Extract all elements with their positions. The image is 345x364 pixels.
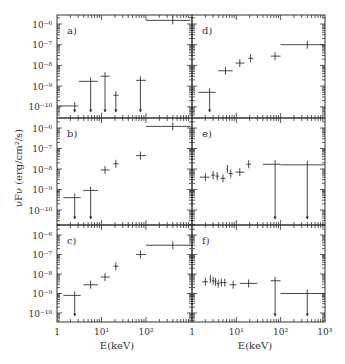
y-tick-label: 10⁻¹⁰: [29, 206, 53, 216]
x-tick-label: 1: [189, 327, 195, 337]
x-tick-label: 10¹: [94, 327, 109, 337]
panel-b: b): [57, 118, 192, 225]
data-point: [200, 173, 210, 181]
panel-a: a): [57, 15, 192, 118]
data-point: [217, 280, 220, 288]
data-point: [57, 102, 78, 113]
data-point: [221, 174, 226, 182]
panel-label: e): [202, 128, 212, 139]
data-point: [146, 122, 191, 130]
data-point: [211, 171, 215, 179]
panel-label: c): [67, 235, 77, 246]
data-point: [216, 172, 220, 180]
spectral-energy-distribution-figure: a)b)c)d)e)f)10⁻⁶10⁻⁷10⁻⁸10⁻⁹10⁻¹⁰10⁻⁶10⁻…: [0, 0, 345, 364]
data-point: [198, 88, 215, 112]
y-tick-label: 10⁻⁷: [32, 250, 52, 260]
data-point: [101, 72, 110, 112]
data-point: [136, 251, 146, 259]
y-tick-label: 10⁻⁸: [32, 165, 52, 175]
data-point: [210, 275, 211, 283]
data-point: [113, 160, 118, 168]
data-point: [229, 281, 236, 289]
x-tick-label: 10²: [273, 327, 288, 337]
data-point: [281, 290, 325, 317]
y-tick-label: 10⁻⁷: [32, 40, 52, 50]
data-point: [223, 279, 227, 287]
data-point: [263, 160, 281, 219]
data-point: [281, 41, 325, 49]
x-tick-label: 1: [54, 327, 60, 337]
x-axis-label-left: E(keV): [100, 340, 134, 351]
y-tick-label: 10⁻⁹: [32, 289, 52, 299]
x-tick-label: 10³: [317, 327, 332, 337]
data-point: [113, 262, 118, 270]
panel-label: d): [202, 25, 212, 36]
data-point: [236, 59, 245, 67]
y-tick-label: 10⁻⁷: [32, 144, 52, 154]
x-axis-label-right: E(keV): [238, 340, 272, 351]
data-point: [79, 77, 98, 112]
data-point: [214, 278, 216, 286]
data-point: [271, 52, 281, 60]
data-point: [146, 241, 191, 249]
data-point: [101, 273, 110, 281]
data-point: [212, 277, 215, 285]
y-tick-label: 10⁻⁸: [32, 270, 52, 280]
panel-c: c): [57, 225, 192, 322]
data-point: [281, 161, 325, 220]
data-point: [202, 278, 208, 286]
y-tick-label: 10⁻⁶: [32, 124, 52, 134]
panel-d: d): [192, 15, 325, 118]
panel-f: f): [192, 225, 325, 322]
data-point: [220, 279, 223, 287]
data-point: [229, 170, 233, 178]
panel-label: f): [202, 235, 210, 246]
data-point: [240, 279, 258, 287]
x-tick-label: 10¹: [229, 327, 244, 337]
data-point: [218, 67, 233, 75]
panel-label: b): [67, 128, 77, 139]
y-tick-label: 10⁻¹⁰: [29, 102, 53, 112]
x-tick-label: 10²: [138, 327, 153, 337]
y-tick-label: 10⁻⁸: [32, 61, 52, 71]
y-tick-label: 10⁻⁶: [32, 231, 52, 241]
y-tick-label: 10⁻⁹: [32, 82, 52, 92]
y-axis-label-rotated: νFν (erg/cm²/s): [13, 129, 24, 207]
data-point: [83, 281, 98, 289]
data-point: [64, 194, 81, 220]
data-point: [247, 160, 252, 168]
y-tick-label: 10⁻¹⁰: [29, 309, 53, 319]
data-point: [136, 152, 146, 160]
panel-label: a): [67, 25, 77, 36]
data-point: [136, 76, 146, 112]
data-point: [101, 166, 110, 174]
y-tick-label: 10⁻⁶: [32, 20, 52, 30]
data-point: [248, 54, 253, 62]
data-point: [226, 165, 228, 173]
data-point: [64, 291, 81, 316]
y-tick-label: 10⁻⁹: [32, 185, 52, 195]
data-point: [113, 91, 118, 112]
panel-e: e): [192, 118, 325, 225]
data-point: [271, 277, 281, 317]
data-point: [83, 186, 98, 219]
data-point: [236, 168, 245, 176]
